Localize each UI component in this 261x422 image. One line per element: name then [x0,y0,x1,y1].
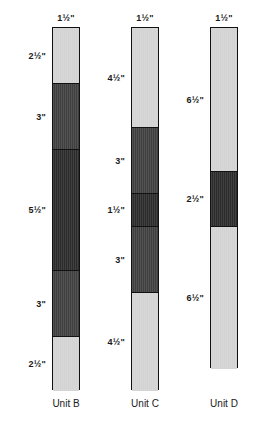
unit-b-segment-2-label: 3" [36,111,46,122]
unit-c-segment-5-label: 4½" [108,337,125,348]
unit-b-segment-1: 2½" [53,28,79,83]
unit-c-bar: 4½" 3" 1½" 3" 4½" [131,27,159,390]
unit-c-segment-1-label: 4½" [108,72,125,83]
unit-c-width-label: 1½" [101,13,189,24]
unit-b-segment-4-label: 3" [36,298,46,309]
unit-b-segment-2: 3" [53,83,79,149]
unit-d-segment-3: 6½" [211,226,237,369]
unit-c-segment-3: 1½" [132,193,158,226]
unit-d-segment-1: 6½" [211,28,237,171]
unit-c-segment-4-label: 3" [115,254,125,265]
unit-d-segment-3-label: 6½" [187,293,204,304]
unit-d-width-label: 1½" [180,13,261,24]
unit-d-segment-2-label: 2½" [187,194,204,205]
unit-column-b: 1½" 2½" 3" 5½" 3" 2½" Unit B [0,0,92,422]
unit-column-d: 1½" 6½" 2½" 6½" Unit D [177,0,261,422]
unit-c-segment-3-label: 1½" [108,205,125,216]
unit-column-c: 1½" 4½" 3" 1½" 3" 4½" Unit C [92,0,177,422]
unit-c-segment-2: 3" [132,127,158,193]
unit-b-segment-3-label: 5½" [29,205,46,216]
unit-d-segment-2: 2½" [211,171,237,226]
unit-c-segment-2-label: 3" [115,155,125,166]
unit-b-segment-3: 5½" [53,149,79,270]
unit-c-segment-4: 3" [132,226,158,292]
unit-c-segment-1: 4½" [132,28,158,127]
unit-c-caption: Unit C [111,398,179,410]
unit-d-caption: Unit D [190,398,258,410]
unit-d-bar: 6½" 2½" 6½" [210,27,238,368]
unit-b-caption: Unit B [32,398,100,410]
unit-b-segment-5-label: 2½" [29,359,46,370]
unit-b-segment-4: 3" [53,270,79,336]
unit-d-segment-1-label: 6½" [187,94,204,105]
unit-b-segment-5: 2½" [53,336,79,391]
unit-b-segment-1-label: 2½" [29,50,46,61]
unit-bars-figure: 1½" 2½" 3" 5½" 3" 2½" Unit B 1½" 4½" [0,0,261,422]
unit-c-segment-5: 4½" [132,292,158,391]
unit-b-bar: 2½" 3" 5½" 3" 2½" [52,27,80,390]
